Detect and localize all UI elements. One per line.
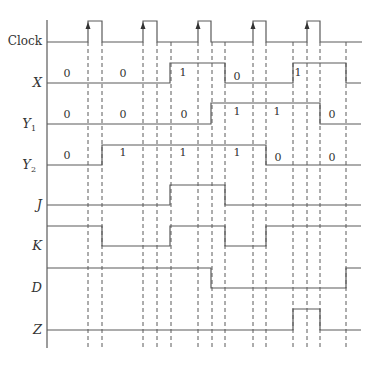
value-y1: 0 — [64, 108, 71, 121]
rising-edge-arrow-icon — [141, 22, 146, 29]
signal-waveforms — [47, 21, 362, 330]
rising-edge-arrow-icon — [86, 22, 91, 29]
value-y2: 1 — [120, 146, 127, 159]
waveform-z — [47, 309, 361, 330]
label-d: D — [31, 280, 43, 295]
value-y2: 0 — [329, 151, 336, 164]
label-y2: Y2 — [22, 157, 36, 174]
value-x: 0 — [120, 67, 127, 80]
rising-edge-arrow-icon — [251, 22, 256, 29]
signal-labels: ClockXY1Y2JKDZ — [8, 34, 44, 337]
waveform-d — [47, 268, 361, 288]
clock-edge-guides — [88, 42, 346, 348]
value-y1: 0 — [329, 108, 336, 121]
timing-diagram: ClockXY1Y2JKDZ 00101000110011100 — [0, 0, 379, 365]
waveform-x — [47, 63, 361, 83]
label-y1: Y1 — [22, 116, 36, 133]
value-y1: 1 — [274, 105, 281, 118]
waveform-k — [47, 226, 361, 246]
value-x: 0 — [234, 70, 241, 83]
value-y1: 1 — [234, 105, 241, 118]
label-z: Z — [32, 322, 43, 337]
rising-edge-arrow-icon — [305, 22, 310, 29]
value-y2: 1 — [180, 146, 187, 159]
value-x: 1 — [295, 66, 302, 79]
value-y2: 0 — [275, 151, 282, 164]
value-y1: 0 — [181, 108, 188, 121]
waveform-y2 — [47, 145, 361, 165]
label-x: X — [32, 75, 43, 90]
value-y2: 0 — [64, 149, 71, 162]
label-j: J — [34, 197, 43, 212]
waveform-clock — [47, 21, 362, 42]
label-clock: Clock — [8, 34, 43, 48]
signal-values: 00101000110011100 — [64, 66, 336, 164]
rising-edge-arrow-icon — [196, 22, 201, 29]
value-y1: 0 — [120, 108, 127, 121]
waveform-y1 — [47, 103, 361, 124]
label-k: K — [31, 238, 43, 253]
value-x: 1 — [180, 66, 187, 79]
value-x: 0 — [64, 67, 71, 80]
waveform-j — [47, 185, 361, 205]
value-y2: 1 — [234, 146, 241, 159]
